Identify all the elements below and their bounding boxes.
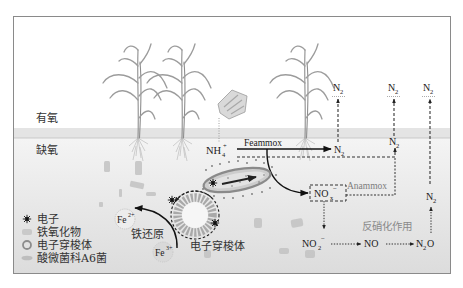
- ferrous-iron: Fe 2+: [115, 209, 135, 229]
- iron-reduction-label: 铁还原: [131, 228, 164, 241]
- iron-oxide-icon: [22, 229, 32, 235]
- oxic-zone-label: 有氧: [36, 111, 58, 125]
- iron-oxide-icon: [119, 189, 122, 197]
- legend-label: 电子穿梭体: [37, 238, 92, 252]
- iron-oxide-icon: [305, 250, 315, 258]
- fe3-base: Fe: [155, 248, 165, 258]
- iron-oxide-icon: [254, 218, 262, 228]
- legend-label: 铁氧化物: [37, 225, 81, 239]
- legend-label: 电子: [37, 213, 59, 226]
- iron-oxide-icon: [146, 192, 156, 196]
- electron-star-icon: [211, 219, 219, 227]
- n2-subscript: 2: [341, 150, 344, 157]
- fe2-base: Fe: [117, 215, 127, 225]
- electron-star-icon: [23, 215, 31, 223]
- legend-label: 酸微菌科A6菌: [37, 251, 107, 265]
- ammonium-base: NH: [206, 145, 222, 156]
- n2-subscript: 2: [395, 88, 398, 95]
- anammox-label: Anammox: [347, 181, 387, 191]
- oxic-anoxic-interface-band: [14, 128, 450, 138]
- feammox-process-diagram: 有氧 缺氧 NH 4 + Feammox N 2 N 2: [0, 0, 463, 288]
- iron-oxide-icon: [104, 161, 110, 172]
- iron-oxide-icon: [279, 248, 289, 254]
- n2-subscript: 2: [430, 88, 433, 95]
- electron-star-icon: [209, 179, 217, 187]
- electron-shuttle-label: 电子穿梭体: [190, 239, 245, 253]
- shuttle-core: [182, 202, 208, 228]
- anoxic-zone-label: 缺氧: [36, 143, 58, 157]
- iron-oxide-icon: [135, 161, 142, 175]
- nitric-oxide-label: NO: [364, 238, 378, 249]
- feammox-label: Feammox: [244, 138, 282, 148]
- ferric-iron: Fe 3+: [153, 242, 173, 262]
- nox-charge: −: [333, 185, 337, 193]
- electron-star-icon: [168, 196, 176, 204]
- n2-subscript: 2: [396, 142, 399, 149]
- n2o-subscript: 2: [423, 244, 426, 251]
- acidimicrobiaceae-a6-rod-icon: [22, 256, 33, 261]
- ammonium-charge: +: [223, 142, 227, 149]
- n2o-tail: O: [427, 238, 434, 249]
- nox-base: NO: [314, 188, 328, 199]
- fe2-charge: 2+: [128, 212, 135, 218]
- denitrification-label: 反硝化作用: [362, 220, 412, 232]
- fe3-charge: 3+: [166, 245, 173, 251]
- n2-subscript: 2: [340, 88, 343, 95]
- nitrite-charge: −: [321, 235, 325, 243]
- iron-oxide-icon: [99, 202, 103, 207]
- n2-subscript: 2: [433, 197, 436, 204]
- nitrite-subscript: 2: [318, 244, 321, 251]
- nitrite-base: NO: [302, 238, 316, 249]
